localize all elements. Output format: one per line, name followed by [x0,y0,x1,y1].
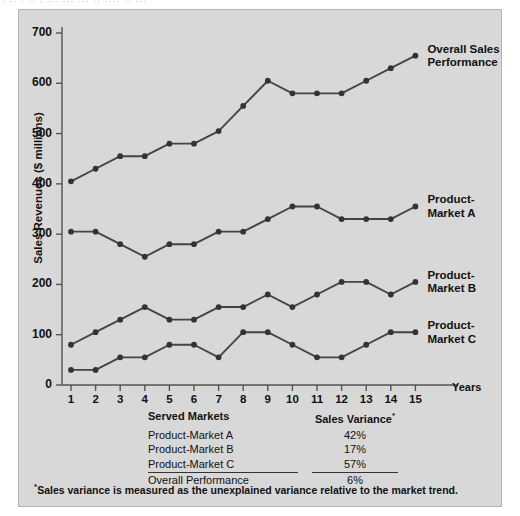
table-row: Product-Market C 57% [148,457,398,474]
x-tick-label: 5 [158,393,180,405]
variance-footnote-marker: * [392,411,395,420]
table-row: Product-Market B 17% [148,442,398,457]
table-cell-market: Product-Market A [148,428,298,443]
x-axis-title: Years [452,381,481,393]
series-label-line: Performance [427,56,499,70]
table-header-row: Served Markets Sales Variance* [148,409,398,426]
y-tick-label: 700 [10,25,52,39]
table-row: Product-Market A 42% [148,428,398,443]
table-cell-variance: 42% [312,428,398,443]
x-tick-label: 15 [404,393,426,405]
x-tick-label: 10 [281,393,303,405]
x-tick-label: 6 [183,393,205,405]
series-label-2: Product-Market A [427,193,475,220]
x-tick-label: 2 [85,393,107,405]
y-tick-label: 400 [10,176,52,190]
series-label-line: Market A [427,207,475,221]
y-tick-label: 500 [10,126,52,140]
table-cell-variance: 57% [312,457,398,474]
series-label-line: Overall Sales [427,43,499,57]
y-tick-label: 0 [10,377,52,391]
y-tick-label: 600 [10,75,52,89]
series-label-line: Market C [427,333,476,347]
x-tick-label: 9 [257,393,279,405]
page-header-fragment: · ·· · ·· · ··· ··· ··· ·· ···· ·· ··· [0,0,520,7]
series-label-line: Market B [427,282,476,296]
x-tick-label: 13 [355,393,377,405]
footnote-text: Sales variance is measured as the unexpl… [37,484,458,496]
series-label-4: Product-Market C [427,319,476,346]
x-tick-label: 12 [331,393,353,405]
series-label-line: Product- [427,193,475,207]
x-tick-label: 3 [109,393,131,405]
y-tick-label: 100 [10,327,52,341]
series-label-3: Product-Market B [427,269,476,296]
chart-figure: · ·· · ·· · ··· ··· ··· ·· ···· ·· ··· S… [0,0,520,516]
table-header-variance: Sales Variance* [312,409,398,426]
x-tick-label: 1 [60,393,82,405]
x-tick-label: 11 [306,393,328,405]
x-tick-label: 8 [232,393,254,405]
table-cell-market: Product-Market B [148,442,298,457]
table-cell-market: Product-Market C [148,457,298,474]
x-tick-label: 7 [208,393,230,405]
series-label-line: Product- [427,319,476,333]
variance-table: Served Markets Sales Variance* Product-M… [148,409,398,488]
footnote: *Sales variance is measured as the unexp… [34,482,458,496]
table-cell-variance: 17% [312,442,398,457]
series-label-line: Product- [427,269,476,283]
y-tick-label: 300 [10,226,52,240]
y-tick-label: 200 [10,276,52,290]
series-label-1: Overall SalesPerformance [427,43,499,70]
x-tick-label: 4 [134,393,156,405]
x-tick-label: 14 [380,393,402,405]
page-header-fragment-text: · ·· · ·· · ··· ··· ··· ·· ···· ·· ··· [2,0,520,6]
table-header-markets: Served Markets [148,409,298,426]
